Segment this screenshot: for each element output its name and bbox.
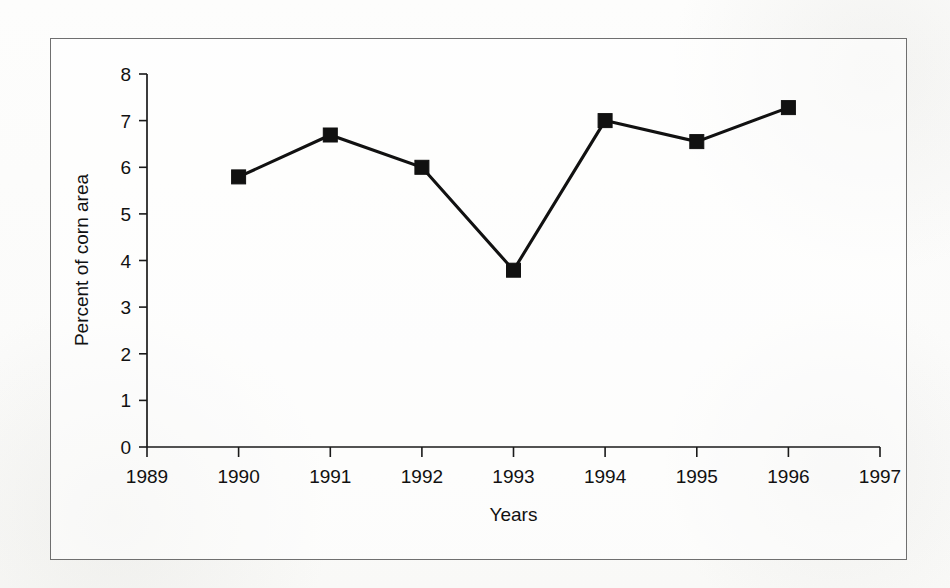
x-axis-title: Years (490, 504, 538, 525)
x-tick-label-1991: 1991 (309, 466, 351, 487)
data-point-1994 (598, 114, 612, 128)
x-tick-label-1995: 1995 (676, 466, 718, 487)
data-point-1995 (690, 135, 704, 149)
x-tick-label-1989: 1989 (126, 466, 168, 487)
y-tick-label-5: 5 (120, 204, 131, 225)
y-axis-title: Percent of corn area (71, 173, 92, 346)
x-axis-tick-labels: 1989 1990 1991 1992 1993 1994 1995 1996 … (126, 466, 901, 487)
page-canvas: 8 7 6 5 4 3 2 1 0 1989 1990 1991 (0, 0, 950, 588)
data-point-1991 (323, 128, 337, 142)
x-tick-label-1993: 1993 (492, 466, 534, 487)
line-chart: 8 7 6 5 4 3 2 1 0 1989 1990 1991 (0, 0, 950, 588)
data-point-1990 (232, 170, 246, 184)
x-tick-label-1996: 1996 (767, 466, 809, 487)
data-series-line (239, 108, 789, 271)
y-tick-label-1: 1 (120, 390, 131, 411)
y-axis-tick-labels: 8 7 6 5 4 3 2 1 0 (120, 64, 131, 458)
y-tick-label-8: 8 (120, 64, 131, 85)
y-tick-label-4: 4 (120, 251, 131, 272)
x-axis-ticks (147, 447, 880, 457)
y-tick-label-7: 7 (120, 111, 131, 132)
y-tick-label-6: 6 (120, 157, 131, 178)
y-tick-label-2: 2 (120, 344, 131, 365)
data-point-1993 (507, 263, 521, 277)
y-tick-label-0: 0 (120, 437, 131, 458)
data-markers (232, 101, 796, 278)
data-point-1992 (415, 160, 429, 174)
data-point-1996 (781, 101, 795, 115)
y-tick-label-3: 3 (120, 297, 131, 318)
x-tick-label-1992: 1992 (401, 466, 443, 487)
x-tick-label-1997: 1997 (859, 466, 901, 487)
x-tick-label-1990: 1990 (217, 466, 259, 487)
y-axis-ticks (139, 74, 147, 447)
x-tick-label-1994: 1994 (584, 466, 627, 487)
